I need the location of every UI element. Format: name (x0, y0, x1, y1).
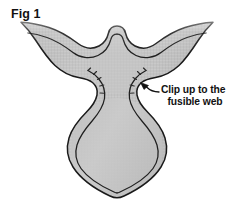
callout-leader (141, 83, 160, 93)
callout-line-2: fusible web (161, 96, 234, 108)
figure-title: Fig 1 (11, 8, 41, 21)
leader-line (147, 87, 160, 92)
figure-container: Fig 1 Clip up to the fusible web (0, 0, 234, 204)
clip-callout-text: Clip up to the fusible web (161, 84, 234, 107)
fabric-piece (21, 22, 213, 202)
callout-line-1: Clip up to the (161, 84, 234, 96)
